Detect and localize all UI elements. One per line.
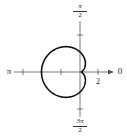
polar-graph: [0, 0, 127, 138]
angle-label-pi-over-2: π 2: [73, 3, 87, 19]
angle-label-pi: π: [5, 67, 13, 76]
tick-label-2: 2: [94, 77, 102, 86]
fraction-denominator: 2: [73, 127, 87, 135]
angle-label-3pi-over-2: 3π 2: [73, 118, 87, 134]
angle-label-0: 0: [116, 67, 124, 76]
fraction-denominator: 2: [73, 12, 87, 20]
arrow-right-icon: [108, 70, 114, 75]
